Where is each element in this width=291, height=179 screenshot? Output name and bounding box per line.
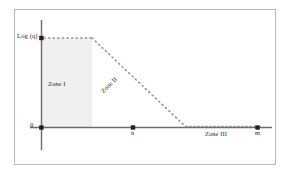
origin-label: 0 bbox=[30, 122, 33, 129]
x-tick-label-m: m bbox=[255, 130, 260, 136]
y-axis-label: Log (q) bbox=[17, 33, 38, 40]
figure-root: Log (q) 0 Zone I Zone II Zone III n m bbox=[0, 0, 291, 179]
zone-3-label: Zone III bbox=[205, 131, 227, 137]
x-tick-label-n: n bbox=[131, 130, 134, 136]
plot-canvas bbox=[0, 0, 291, 179]
marker-origin bbox=[39, 125, 43, 129]
zone-1-label: Zone I bbox=[48, 81, 65, 87]
marker-log-q bbox=[39, 36, 43, 40]
